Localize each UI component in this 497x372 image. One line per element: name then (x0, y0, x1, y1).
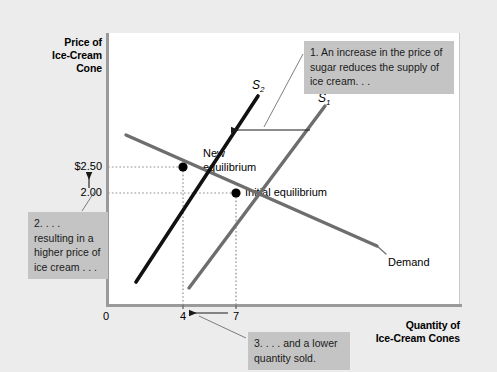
y-axis-title-line-1: Price of (38, 36, 102, 49)
x-axis-title-line-1: Quantity of (348, 319, 460, 332)
y-tick-label-250: $2.50 (58, 160, 102, 172)
x-tick-label-7: 7 (229, 310, 243, 322)
supply-curve-2-label-text: S (252, 78, 260, 92)
callout-box-1: 1. An increase in the price of sugar red… (304, 41, 454, 94)
origin-label: 0 (99, 310, 113, 322)
y-axis-title-line-3: Cone (38, 62, 102, 75)
y-axis-title-line-2: Ice-Cream (38, 49, 102, 62)
demand-curve-label: Demand (388, 256, 430, 268)
y-tick-label-200: 2.00 (58, 186, 102, 198)
new-equilibrium-label-line-1: New (203, 147, 273, 161)
figure-panel: Price of Ice-Cream Cone Quantity of Ice-… (0, 0, 497, 372)
x-axis-title: Quantity of Ice-Cream Cones (348, 319, 460, 345)
supply-curve-1-label-sub: 1 (326, 98, 330, 107)
supply-curve-2-label: S2 (252, 78, 264, 94)
new-equilibrium-label-line-2: equilibrium (203, 161, 273, 175)
x-tick-label-4: 4 (176, 310, 190, 322)
x-axis-line (106, 304, 462, 307)
supply-curve-2-label-sub: 2 (260, 85, 264, 94)
y-axis-title: Price of Ice-Cream Cone (38, 36, 102, 75)
callout-box-2: 2. . . . resulting in a higher price of … (28, 212, 108, 279)
x-axis-title-line-2: Ice-Cream Cones (348, 332, 460, 345)
callout-box-3: 3. . . . and a lower quantity sold. (248, 332, 350, 370)
new-equilibrium-label: New equilibrium (203, 147, 273, 174)
initial-equilibrium-label: Initial equilibrium (245, 186, 355, 200)
